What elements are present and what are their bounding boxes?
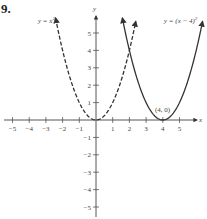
- y-tick-label: 1: [88, 99, 92, 107]
- x-tick-label: −2: [59, 125, 67, 133]
- y-tick-label: −5: [84, 204, 92, 212]
- x-tick-label: −4: [25, 125, 33, 133]
- x-tick-label: 2: [128, 125, 132, 133]
- x-tick-label: 1: [111, 125, 115, 133]
- y-tick-label: −2: [84, 151, 92, 159]
- curve2-label: y = (x − 4)2: [163, 16, 198, 25]
- x-tick-label: 3: [144, 125, 148, 133]
- x-tick-label: 5: [178, 125, 182, 133]
- x-tick-label: 4: [161, 125, 165, 133]
- y-tick-label: 2: [88, 82, 92, 90]
- x-tick-label: −1: [76, 125, 84, 133]
- x-tick-label: −5: [9, 125, 17, 133]
- vertex-label: (4, 0): [155, 106, 171, 114]
- x-axis-label: x: [198, 116, 203, 124]
- y-tick-label: 4: [88, 47, 92, 55]
- axes: −5−4−3−2−11234554321−1−2−3−4−5: [4, 16, 197, 217]
- y-tick-label: −4: [84, 186, 92, 194]
- curve-y-equals-x-minus-4-squared: [122, 18, 202, 120]
- curve1-label: y = x2: [37, 16, 55, 25]
- y-tick-label: 3: [88, 64, 92, 72]
- x-tick-label: −3: [42, 125, 50, 133]
- y-tick-label: −3: [84, 169, 92, 177]
- graph: −5−4−3−2−11234554321−1−2−3−4−5 y = x2 y …: [0, 0, 207, 219]
- y-axis-label: y: [92, 5, 97, 13]
- y-tick-label: −1: [84, 134, 92, 142]
- curves: [56, 18, 203, 120]
- y-tick-label: 5: [88, 30, 92, 38]
